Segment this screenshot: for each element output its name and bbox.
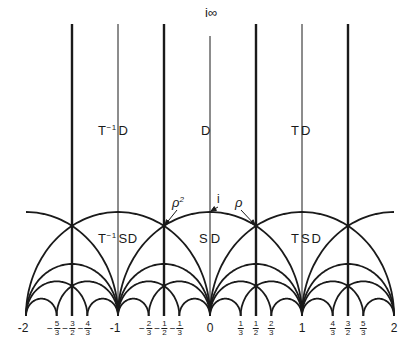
arc: [26, 299, 57, 316]
modular-tessellation-diagram: [0, 0, 417, 351]
arrowhead-icon: [211, 207, 216, 211]
arc: [179, 299, 210, 316]
axis-label-fraction: 23: [268, 320, 274, 337]
arc: [118, 299, 149, 316]
arc: [87, 299, 118, 316]
axis-label-integer: 0: [207, 321, 214, 335]
rho-squared-label: ρ2: [172, 196, 184, 209]
arc: [302, 299, 333, 316]
i-infinity-label: i∞: [205, 6, 217, 19]
arc: [271, 299, 302, 316]
region-label-t-d: TD: [291, 124, 312, 137]
minus-sign: −: [139, 324, 145, 334]
axis-label-integer: 1: [299, 321, 306, 335]
axis-label-fraction: 12: [253, 320, 259, 337]
axis-label-integer: -2: [18, 321, 29, 335]
minus-sign: −: [170, 324, 176, 334]
axis-label-fraction: −12: [154, 320, 167, 337]
axis-label-fraction: 53: [360, 320, 366, 337]
axis-label-fraction: −43: [78, 320, 91, 337]
region-label-t-sd: TSD: [291, 232, 323, 245]
minus-sign: −: [154, 324, 160, 334]
axis-label-fraction: 43: [329, 320, 335, 337]
axis-label-fraction: −13: [170, 320, 183, 337]
i-label: i: [217, 193, 220, 205]
region-label-t-inverse-sd: T−1SD: [98, 232, 138, 245]
axis-label-fraction: −53: [47, 320, 60, 337]
vertical-lines: [72, 24, 348, 316]
minus-sign: −: [47, 324, 53, 334]
axis-label-integer: 2: [391, 321, 398, 335]
region-label-t-inverse-d: T−1D: [98, 124, 128, 137]
axis-label-fraction: −23: [139, 320, 152, 337]
axis-label-fraction: −32: [62, 320, 75, 337]
region-label-sd: SD: [199, 232, 223, 245]
region-label-d: D: [201, 124, 211, 137]
axis-label-integer: -1: [110, 321, 121, 335]
arc: [210, 299, 241, 316]
minus-sign: −: [62, 324, 68, 334]
minus-sign: −: [78, 324, 84, 334]
arc: [363, 299, 394, 316]
axis-label-fraction: 32: [345, 320, 351, 337]
rho-label: ρ: [235, 196, 242, 209]
axis-label-fraction: 13: [237, 320, 243, 337]
